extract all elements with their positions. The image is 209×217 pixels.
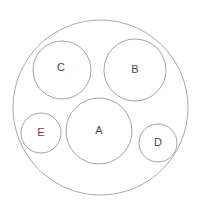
diagram-background <box>0 0 209 217</box>
circle-label-A: A <box>95 124 103 136</box>
circle-label-D: D <box>154 136 162 148</box>
circle-label-E: E <box>37 126 44 138</box>
circle-label-C: C <box>57 61 65 73</box>
diagram-canvas: A B C D E <box>0 0 209 217</box>
circle-packing-diagram: A B C D E <box>0 0 209 217</box>
circle-label-B: B <box>131 63 138 75</box>
